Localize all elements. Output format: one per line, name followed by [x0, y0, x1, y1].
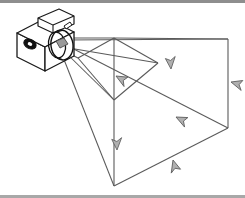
arrow-near-diagonal-icon: [113, 72, 128, 86]
camera-icon: [17, 9, 75, 71]
projection-rays: [61, 38, 228, 186]
arrow-far-top-edge-icon: [165, 56, 176, 69]
near-plane-bottom-left-edge: [78, 58, 114, 100]
direction-arrows: [112, 56, 244, 173]
top-border-bar: [0, 0, 245, 3]
arrow-far-right-edge-icon: [230, 78, 244, 91]
ray-to-far-bottom-left: [61, 52, 114, 186]
figure-container: Camera view frustum projection diagram: [0, 0, 245, 198]
camera-frustum-diagram: [0, 0, 245, 198]
frustum-near-plane: [78, 38, 158, 100]
far-plane-bottom-edge: [114, 128, 228, 186]
arrow-far-bottom-icon: [168, 159, 181, 173]
arrow-center-ray-icon: [174, 113, 189, 127]
bottom-border-bar: [0, 195, 245, 198]
arrow-mid-vertical-icon: [112, 138, 123, 151]
ray-to-far-top-right: [65, 39, 228, 40]
